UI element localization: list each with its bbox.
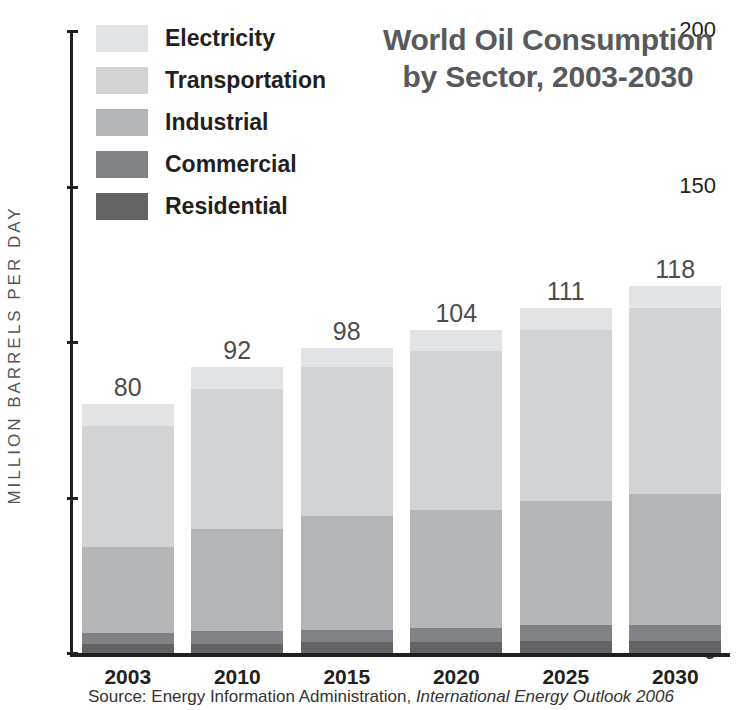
bar-segment-commercial[interactable] (301, 630, 393, 642)
bar-segment-commercial[interactable] (82, 633, 174, 644)
legend-item-commercial[interactable]: Commercial (96, 150, 396, 178)
x-tick-label-2030: 2030 (629, 665, 721, 689)
bar-segment-residential[interactable] (301, 642, 393, 653)
bar-group-2010[interactable]: 92 (191, 367, 283, 653)
bar-segment-electricity[interactable] (629, 286, 721, 308)
legend-swatch-icon (96, 151, 148, 178)
bar-value-label: 111 (520, 279, 612, 304)
source-prefix: Source: Energy Information Administratio… (88, 687, 411, 706)
legend-swatch-icon (96, 25, 148, 52)
x-tick-label-2015: 2015 (301, 665, 393, 689)
bar-value-label: 98 (301, 319, 393, 344)
x-tick-label-2010: 2010 (191, 665, 283, 689)
x-tick-label-2003: 2003 (82, 665, 174, 689)
bar-segment-commercial[interactable] (629, 625, 721, 641)
chart-title: World Oil Consumption by Sector, 2003-20… (368, 22, 728, 95)
bar-segment-electricity[interactable] (82, 404, 174, 426)
y-axis-title: MILLION BARRELS PER DAY (0, 0, 32, 710)
x-tick-label-2025: 2025 (520, 665, 612, 689)
bar-segment-residential[interactable] (410, 642, 502, 653)
bar-segment-transportation[interactable] (629, 308, 721, 495)
bar-segment-electricity[interactable] (301, 348, 393, 367)
bar-segment-commercial[interactable] (520, 625, 612, 641)
bar-segment-electricity[interactable] (191, 367, 283, 389)
legend-item-label: Residential (165, 195, 288, 218)
chart-title-line-1: World Oil Consumption (368, 22, 728, 59)
bar-segment-transportation[interactable] (82, 426, 174, 547)
x-tick-label-2020: 2020 (410, 665, 502, 689)
bar-segment-electricity[interactable] (520, 308, 612, 330)
chart-title-line-2: by Sector, 2003-2030 (368, 59, 728, 96)
source-note: Source: Energy Information Administratio… (88, 687, 674, 707)
legend-item-label: Transportation (165, 69, 326, 92)
legend: ElectricityTransportationIndustrialComme… (96, 24, 396, 234)
y-axis-title-text: MILLION BARRELS PER DAY (5, 205, 25, 504)
bar-segment-residential[interactable] (520, 641, 612, 653)
bar-segment-commercial[interactable] (191, 631, 283, 643)
legend-swatch-icon (96, 193, 148, 220)
legend-item-label: Industrial (165, 111, 269, 134)
legend-item-transportation[interactable]: Transportation (96, 66, 396, 94)
legend-item-residential[interactable]: Residential (96, 192, 396, 220)
bar-segment-industrial[interactable] (191, 529, 283, 632)
legend-swatch-icon (96, 109, 148, 136)
bar-group-2003[interactable]: 80 (82, 404, 174, 653)
bar-value-label: 118 (629, 257, 721, 282)
legend-swatch-icon (96, 67, 148, 94)
bar-group-2025[interactable]: 111 (520, 308, 612, 653)
chart-root: MILLION BARRELS PER DAY 050100150200 809… (0, 0, 742, 710)
bar-segment-industrial[interactable] (629, 494, 721, 625)
bar-group-2030[interactable]: 118 (629, 286, 721, 653)
legend-item-label: Electricity (165, 27, 275, 50)
bar-segment-residential[interactable] (82, 644, 174, 653)
bar-segment-industrial[interactable] (82, 547, 174, 633)
legend-item-electricity[interactable]: Electricity (96, 24, 396, 52)
bar-segment-industrial[interactable] (410, 510, 502, 628)
source-publication: International Energy Outlook 2006 (411, 687, 674, 706)
bar-group-2020[interactable]: 104 (410, 330, 502, 653)
bar-value-label: 92 (191, 338, 283, 363)
bar-segment-commercial[interactable] (410, 628, 502, 642)
bar-segment-transportation[interactable] (410, 351, 502, 510)
bar-segment-industrial[interactable] (301, 516, 393, 630)
bar-segment-transportation[interactable] (191, 389, 283, 529)
legend-item-label: Commercial (165, 153, 297, 176)
bar-segment-residential[interactable] (629, 641, 721, 653)
bar-segment-electricity[interactable] (410, 330, 502, 352)
legend-item-industrial[interactable]: Industrial (96, 108, 396, 136)
bar-segment-transportation[interactable] (520, 330, 612, 501)
bar-segment-transportation[interactable] (301, 367, 393, 516)
bar-group-2015[interactable]: 98 (301, 348, 393, 653)
bar-segment-residential[interactable] (191, 644, 283, 653)
bar-segment-industrial[interactable] (520, 501, 612, 625)
bar-value-label: 80 (82, 375, 174, 400)
bar-value-label: 104 (410, 301, 502, 326)
